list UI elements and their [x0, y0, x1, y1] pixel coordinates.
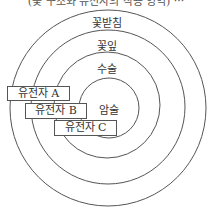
label-stamen: 수술 — [97, 60, 117, 76]
label-pistil: 암술 — [99, 101, 119, 117]
gene-c-letter: C — [98, 121, 106, 134]
gene-a-letter: A — [51, 87, 59, 100]
gene-b-letter: B — [69, 104, 77, 117]
gene-b-box: 유전자 B — [25, 103, 87, 119]
label-calyx: 꽃받침 — [92, 14, 122, 30]
label-petal: 꽃잎 — [97, 37, 117, 53]
gene-a-prefix: 유전자 — [18, 87, 48, 100]
gene-c-box: 유전자 C — [54, 120, 117, 136]
gene-b-prefix: 유전자 — [35, 104, 65, 117]
gene-c-prefix: 유전자 — [65, 121, 95, 134]
gene-a-box: 유전자 A — [7, 86, 70, 101]
